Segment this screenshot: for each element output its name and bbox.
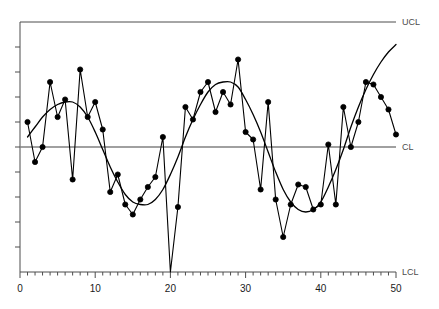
control-chart: 01020304050 UCL CL LCL xyxy=(0,0,439,309)
observation-marker xyxy=(235,57,240,62)
observation-marker xyxy=(55,114,60,119)
observation-marker xyxy=(175,204,180,209)
observation-marker xyxy=(40,144,45,149)
chart-canvas: 01020304050 UCL CL LCL xyxy=(0,0,439,309)
observation-marker xyxy=(266,99,271,104)
observation-marker xyxy=(281,234,286,239)
observation-marker xyxy=(123,202,128,207)
observation-marker xyxy=(220,89,225,94)
chart-background xyxy=(0,0,439,309)
observation-marker xyxy=(378,94,383,99)
observation-marker xyxy=(348,144,353,149)
observation-marker xyxy=(183,104,188,109)
observation-marker xyxy=(63,97,68,102)
observation-marker xyxy=(85,114,90,119)
observation-marker xyxy=(70,177,75,182)
observation-marker xyxy=(371,82,376,87)
observation-marker xyxy=(251,137,256,142)
x-tick-label: 10 xyxy=(90,283,102,294)
observation-marker xyxy=(198,89,203,94)
observation-marker xyxy=(296,182,301,187)
observation-marker xyxy=(153,174,158,179)
observation-marker xyxy=(190,117,195,122)
x-tick-label: 50 xyxy=(390,283,402,294)
observation-marker xyxy=(318,202,323,207)
observation-marker xyxy=(333,202,338,207)
observation-marker xyxy=(303,184,308,189)
observation-marker xyxy=(243,129,248,134)
x-tick-label: 20 xyxy=(165,283,177,294)
observation-marker xyxy=(356,119,361,124)
observation-marker xyxy=(32,159,37,164)
observation-marker xyxy=(93,99,98,104)
x-tick-label: 30 xyxy=(240,283,252,294)
observation-marker xyxy=(160,134,165,139)
observation-marker xyxy=(138,197,143,202)
observation-marker xyxy=(25,119,30,124)
observation-marker xyxy=(213,109,218,114)
observation-marker xyxy=(108,189,113,194)
observation-marker xyxy=(130,212,135,217)
observation-marker xyxy=(115,172,120,177)
observation-marker xyxy=(47,79,52,84)
observation-marker xyxy=(393,132,398,137)
observation-marker xyxy=(288,202,293,207)
observation-marker xyxy=(100,127,105,132)
observation-marker xyxy=(258,187,263,192)
x-tick-label: 40 xyxy=(315,283,327,294)
observation-marker xyxy=(205,79,210,84)
observation-marker xyxy=(228,102,233,107)
observation-marker xyxy=(145,184,150,189)
observation-marker xyxy=(326,142,331,147)
observation-marker xyxy=(341,104,346,109)
observation-marker xyxy=(386,107,391,112)
ucl-label: UCL xyxy=(402,17,420,27)
cl-label: CL xyxy=(402,142,414,152)
observation-marker xyxy=(363,79,368,84)
x-tick-label: 0 xyxy=(17,283,23,294)
observation-marker xyxy=(78,67,83,72)
lcl-label: LCL xyxy=(402,267,419,277)
observation-marker xyxy=(311,207,316,212)
observation-marker xyxy=(273,197,278,202)
